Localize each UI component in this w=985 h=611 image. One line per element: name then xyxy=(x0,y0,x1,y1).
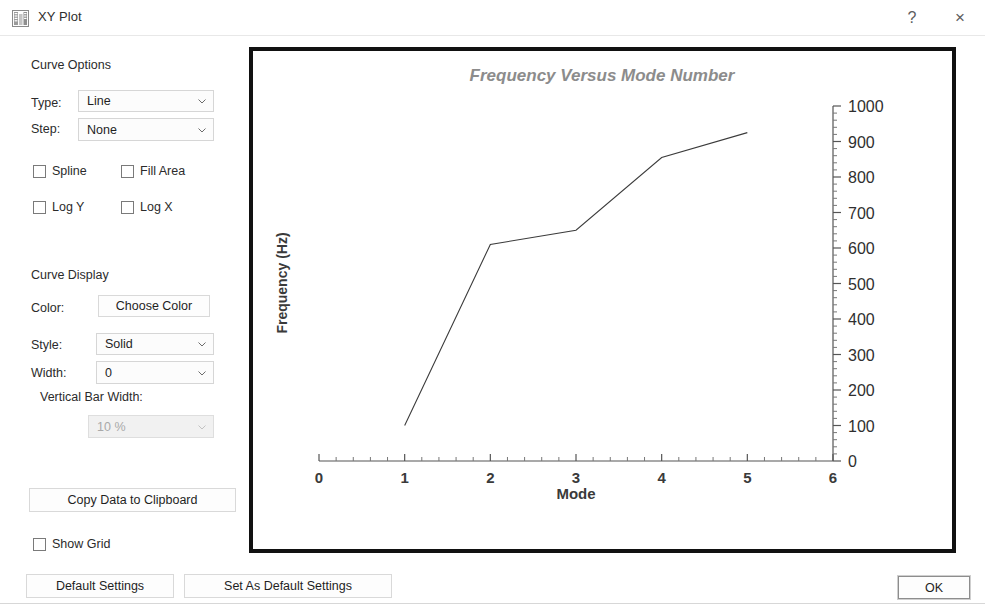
vertical-bar-width-select: 10 % xyxy=(88,415,214,438)
checkbox-box xyxy=(121,201,134,214)
type-label: Type: xyxy=(31,96,62,110)
footer-divider xyxy=(0,603,985,604)
plot-area: Frequency Versus Mode Number 0123456 010… xyxy=(249,47,956,553)
checkbox-label: Log X xyxy=(140,200,173,214)
default-settings-button[interactable]: Default Settings xyxy=(26,574,174,598)
type-select-value: Line xyxy=(87,94,111,108)
window-title: XY Plot xyxy=(38,9,82,24)
checkbox-fill-area[interactable]: Fill Area xyxy=(121,164,185,178)
width-select[interactable]: 0 xyxy=(96,361,214,384)
checkbox-label: Log Y xyxy=(52,200,84,214)
step-select-value: None xyxy=(87,123,117,137)
choose-color-button[interactable]: Choose Color xyxy=(98,295,210,317)
svg-text:2: 2 xyxy=(486,469,494,486)
svg-text:1: 1 xyxy=(400,469,408,486)
chevron-down-icon xyxy=(198,128,206,133)
svg-text:900: 900 xyxy=(848,134,875,151)
help-button[interactable]: ? xyxy=(890,4,934,32)
svg-text:200: 200 xyxy=(848,382,875,399)
width-select-value: 0 xyxy=(105,366,112,380)
chevron-down-icon xyxy=(198,342,206,347)
checkbox-label: Fill Area xyxy=(140,164,185,178)
svg-text:500: 500 xyxy=(848,276,875,293)
svg-text:5: 5 xyxy=(743,469,751,486)
style-select-value: Solid xyxy=(105,337,133,351)
svg-text:800: 800 xyxy=(848,169,875,186)
set-as-default-settings-button[interactable]: Set As Default Settings xyxy=(184,574,392,598)
style-select[interactable]: Solid xyxy=(96,333,214,355)
svg-text:0: 0 xyxy=(848,453,857,470)
copy-data-to-clipboard-button[interactable]: Copy Data to Clipboard xyxy=(29,488,236,512)
ok-button[interactable]: OK xyxy=(898,576,970,599)
options-panel: Curve Options Type: Line Step: None Spli… xyxy=(0,36,248,559)
checkbox-box xyxy=(33,201,46,214)
y-axis-label: Frequency (Hz) xyxy=(274,232,290,333)
svg-text:400: 400 xyxy=(848,311,875,328)
style-label: Style: xyxy=(31,338,62,352)
svg-text:100: 100 xyxy=(848,418,875,435)
xy-plot-dialog: XY Plot ? × Curve Options Type: Line Ste… xyxy=(0,0,985,611)
svg-text:300: 300 xyxy=(848,347,875,364)
svg-text:700: 700 xyxy=(848,205,875,222)
close-button[interactable]: × xyxy=(938,4,982,32)
frequency-vs-mode-chart: Frequency Versus Mode Number 0123456 010… xyxy=(253,51,952,549)
checkbox-label: Spline xyxy=(52,164,87,178)
vertical-bar-width-label: Vertical Bar Width: xyxy=(40,390,143,404)
checkbox-log-y[interactable]: Log Y xyxy=(33,200,84,214)
chevron-down-icon xyxy=(198,99,206,104)
checkbox-spline[interactable]: Spline xyxy=(33,164,87,178)
x-axis-label: Mode xyxy=(556,485,595,502)
chart-grid-icon xyxy=(12,10,29,27)
chart-title: Frequency Versus Mode Number xyxy=(470,66,736,85)
svg-text:0: 0 xyxy=(315,469,323,486)
curve-display-group-label: Curve Display xyxy=(31,268,109,282)
svg-text:600: 600 xyxy=(848,240,875,257)
checkbox-label: Show Grid xyxy=(52,537,110,551)
step-select[interactable]: None xyxy=(78,118,214,141)
checkbox-log-x[interactable]: Log X xyxy=(121,200,173,214)
chevron-down-icon xyxy=(198,425,206,430)
checkbox-box xyxy=(121,165,134,178)
width-label: Width: xyxy=(31,366,66,380)
checkbox-show-grid[interactable]: Show Grid xyxy=(33,537,110,551)
type-select[interactable]: Line xyxy=(78,90,214,112)
svg-text:6: 6 xyxy=(829,469,837,486)
checkbox-box xyxy=(33,165,46,178)
curve-options-group-label: Curve Options xyxy=(31,58,111,72)
svg-text:3: 3 xyxy=(572,469,580,486)
step-label: Step: xyxy=(31,122,60,136)
chevron-down-icon xyxy=(198,371,206,376)
checkbox-box xyxy=(33,538,46,551)
color-label: Color: xyxy=(31,301,64,315)
title-bar: XY Plot ? × xyxy=(0,0,985,36)
svg-text:4: 4 xyxy=(657,469,666,486)
svg-text:1000: 1000 xyxy=(848,98,884,115)
vertical-bar-width-value: 10 % xyxy=(97,420,126,434)
